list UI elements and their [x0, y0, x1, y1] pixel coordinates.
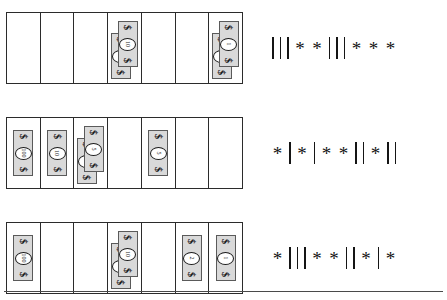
- money-grid: $ 10 $ $ 10 $: [6, 12, 243, 84]
- tally-star-mark: *: [312, 249, 323, 268]
- grid-cell[interactable]: [7, 13, 41, 83]
- tally-bar-mark: [289, 142, 291, 164]
- grid-cell[interactable]: $ 1 $ $ 1 $: [209, 13, 242, 83]
- dollar-sign-icon: $: [187, 239, 196, 244]
- dollar-sign-icon: $: [19, 239, 28, 244]
- grid-cell[interactable]: [209, 118, 242, 188]
- bill-denomination-oval: 1: [220, 38, 237, 51]
- grid-cell[interactable]: [142, 223, 176, 293]
- money-stack[interactable]: $ 100 $: [7, 118, 40, 188]
- tally-star-mark: *: [272, 144, 283, 163]
- money-stack[interactable]: $ 2 $: [176, 223, 209, 293]
- bill-denomination-value: 2: [189, 257, 195, 260]
- dollar-bill[interactable]: $ 10 $: [118, 231, 138, 277]
- grid-cell[interactable]: $ 5 $: [142, 118, 176, 188]
- tally-bar-mark: [304, 247, 306, 269]
- dollar-sign-icon: $: [123, 235, 132, 240]
- footer-divider: [4, 291, 443, 292]
- dollar-sign-icon: $: [53, 167, 62, 172]
- dollar-bill[interactable]: $ 10 $: [47, 130, 67, 176]
- grid-cell[interactable]: $ 100 $: [7, 223, 41, 293]
- tally-bar-mark: [287, 37, 289, 59]
- bill-denomination-value: 1: [223, 257, 229, 260]
- grid-cell[interactable]: $ 1 $: [209, 223, 242, 293]
- grid-cell[interactable]: [74, 13, 108, 83]
- tally-bar-mark: [289, 247, 291, 269]
- dollar-sign-icon: $: [89, 163, 98, 168]
- tally-bar-mark: [314, 142, 316, 164]
- tally-bar-mark: [297, 247, 299, 269]
- money-stack[interactable]: $ 100 $: [7, 223, 40, 293]
- tally-bar-mark: [344, 37, 346, 59]
- grid-cell[interactable]: [176, 118, 210, 188]
- tally-bar-mark: [329, 37, 331, 59]
- bill-denomination-oval: 100: [15, 252, 32, 265]
- grid-cell[interactable]: [41, 223, 75, 293]
- tally-star-mark: *: [368, 39, 379, 58]
- dollar-bill[interactable]: $ 5 $: [148, 130, 168, 176]
- bill-denomination-value: 10: [125, 41, 131, 47]
- tally-star-mark: *: [295, 39, 306, 58]
- dollar-sign-icon: $: [123, 25, 132, 30]
- grid-cell[interactable]: $ 5 $ $ 5 $: [74, 118, 108, 188]
- dollar-sign-icon: $: [53, 134, 62, 139]
- dollar-bill[interactable]: $ 100 $: [13, 235, 33, 281]
- grid-cell[interactable]: $ 2 $: [176, 223, 210, 293]
- bill-denomination-value: 1: [226, 43, 232, 46]
- bill-denomination-oval: 5: [150, 147, 167, 160]
- tally-bar-mark: [346, 247, 348, 269]
- money-stack[interactable]: $ 1 $ $ 1 $: [209, 13, 242, 83]
- dollar-sign-icon: $: [221, 272, 230, 277]
- dollar-sign-icon: $: [123, 58, 132, 63]
- money-stack[interactable]: $ 10 $ $ 10 $: [108, 13, 141, 83]
- tally-bar-mark: [353, 247, 355, 269]
- tally-bar-mark: [363, 142, 365, 164]
- grid-cell[interactable]: [108, 118, 142, 188]
- grid-cell[interactable]: $ 10 $ $ 10 $: [108, 13, 142, 83]
- tally-marks-group: * * * * *: [272, 222, 444, 294]
- grid-cell[interactable]: [41, 13, 75, 83]
- tally-star-mark: *: [272, 249, 283, 268]
- money-stack[interactable]: $ 10 $: [41, 118, 74, 188]
- money-stack[interactable]: $ 10 $ $ 10 $: [108, 223, 141, 293]
- tally-star-mark: *: [329, 249, 340, 268]
- tally-bar-mark: [280, 37, 282, 59]
- tally-bar-mark: [272, 37, 274, 59]
- bill-denomination-oval: 10: [49, 147, 66, 160]
- bill-denomination-value: 100: [20, 254, 26, 263]
- dollar-bill[interactable]: $ 1 $: [219, 21, 239, 67]
- bill-denomination-oval: 5: [85, 143, 102, 156]
- tally-bar-mark: [355, 142, 357, 164]
- tally-bar-mark: [378, 247, 380, 269]
- grid-cell[interactable]: $ 10 $ $ 10 $: [108, 223, 142, 293]
- grid-cell[interactable]: $ 100 $: [7, 118, 41, 188]
- money-stack[interactable]: $ 1 $: [209, 223, 242, 293]
- dollar-bill[interactable]: $ 10 $: [118, 21, 138, 67]
- dollar-bill[interactable]: $ 2 $: [182, 235, 202, 281]
- grid-cell[interactable]: [74, 223, 108, 293]
- tally-star-mark: *: [338, 144, 349, 163]
- dollar-sign-icon: $: [221, 239, 230, 244]
- worksheet-sheet: $ 10 $ $ 10 $: [0, 0, 447, 300]
- dollar-bill[interactable]: $ 100 $: [13, 130, 33, 176]
- grid-cell[interactable]: [142, 13, 176, 83]
- tally-star-mark: *: [297, 144, 308, 163]
- bill-denomination-oval: 10: [119, 248, 136, 261]
- dollar-sign-icon: $: [224, 58, 233, 63]
- tally-star-mark: *: [351, 39, 362, 58]
- dollar-sign-icon: $: [19, 272, 28, 277]
- tally-star-mark: *: [385, 39, 396, 58]
- money-stack[interactable]: $ 5 $ $ 5 $: [74, 118, 107, 188]
- tally-star-mark: *: [361, 249, 372, 268]
- dollar-sign-icon: $: [116, 70, 125, 75]
- bill-denomination-oval: 2: [183, 252, 200, 265]
- grid-cell[interactable]: $ 10 $: [41, 118, 75, 188]
- grid-cell[interactable]: [176, 13, 210, 83]
- dollar-bill[interactable]: $ 1 $: [216, 235, 236, 281]
- tally-star-mark: *: [321, 144, 332, 163]
- bill-denomination-value: 5: [155, 152, 161, 155]
- money-stack[interactable]: $ 5 $: [142, 118, 175, 188]
- dollar-bill[interactable]: $ 5 $: [84, 126, 104, 172]
- tally-star-mark: *: [385, 249, 396, 268]
- dollar-sign-icon: $: [154, 167, 163, 172]
